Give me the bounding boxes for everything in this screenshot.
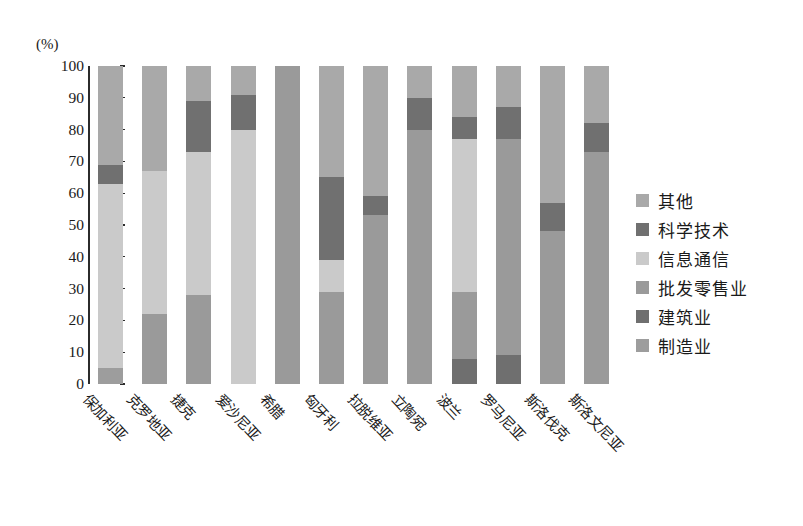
legend-swatch-icon	[636, 194, 649, 207]
bar-segment-信息通信	[98, 184, 123, 368]
bar-波兰	[452, 66, 477, 384]
legend-swatch-icon	[636, 223, 649, 236]
y-tick-label: 70	[40, 154, 84, 170]
bar-segment-建筑业	[496, 355, 521, 384]
x-label-罗马尼亚: 罗马尼亚	[476, 388, 531, 445]
bar-捷克	[186, 66, 211, 384]
bar-segment-批发零售业	[496, 139, 521, 355]
bar-segment-其他	[407, 66, 432, 98]
bar-segment-其他	[540, 66, 565, 203]
y-axis-tick-labels: 1009080706050403020100	[36, 0, 84, 526]
bar-立陶宛	[407, 66, 432, 384]
x-label-波兰: 波兰	[432, 388, 467, 424]
bar-segment-建筑业	[452, 359, 477, 384]
y-tick-label: 50	[40, 217, 84, 233]
bar-segment-其他	[584, 66, 609, 123]
x-label-斯洛伐克: 斯洛伐克	[521, 388, 576, 445]
stacked-bar-chart: (%) 1009080706050403020100 保加利亚克罗地亚捷克爱沙尼…	[0, 0, 803, 526]
bar-segment-科学技术	[540, 203, 565, 232]
bar-斯洛伐克	[540, 66, 565, 384]
bar-匈牙利	[319, 66, 344, 384]
legend-swatch-icon	[636, 281, 649, 294]
bar-segment-科学技术	[452, 117, 477, 139]
legend-label: 批发零售业	[658, 275, 748, 300]
bar-segment-批发零售业	[407, 130, 432, 384]
bar-segment-其他	[186, 66, 211, 101]
bar-拉脱维亚	[363, 66, 388, 384]
y-tick-label: 90	[40, 90, 84, 106]
x-label-爱沙尼亚: 爱沙尼亚	[211, 388, 266, 445]
bar-segment-其他	[142, 66, 167, 171]
bar-segment-科学技术	[186, 101, 211, 152]
bar-segment-批发零售业	[363, 215, 388, 384]
bar-罗马尼亚	[496, 66, 521, 384]
bar-segment-其他	[452, 66, 477, 117]
bar-segment-批发零售业	[540, 231, 565, 384]
legend-item: 制造业	[636, 331, 748, 360]
legend-item: 科学技术	[636, 215, 748, 244]
bar-segment-批发零售业	[275, 66, 300, 384]
bar-segment-科学技术	[496, 107, 521, 139]
x-label-匈牙利: 匈牙利	[300, 388, 345, 434]
x-label-斯洛文尼亚: 斯洛文尼亚	[565, 388, 630, 455]
x-label-希腊: 希腊	[255, 388, 290, 424]
y-tick-label: 30	[40, 281, 84, 297]
y-tick-label: 100	[40, 58, 84, 74]
legend-label: 信息通信	[658, 246, 730, 271]
y-tick-label: 0	[40, 376, 84, 392]
bar-segment-科学技术	[98, 165, 123, 184]
x-axis-category-labels: 保加利亚克罗地亚捷克爱沙尼亚希腊匈牙利拉脱维亚立陶宛波兰罗马尼亚斯洛伐克斯洛文尼…	[90, 388, 650, 518]
bar-segment-科学技术	[407, 98, 432, 130]
legend-label: 科学技术	[658, 217, 730, 242]
x-label-克罗地亚: 克罗地亚	[123, 388, 178, 445]
bar-segment-其他	[98, 66, 123, 165]
bar-segment-信息通信	[319, 260, 344, 292]
bar-斯洛文尼亚	[584, 66, 609, 384]
y-tick-label: 80	[40, 122, 84, 138]
bar-segment-科学技术	[363, 196, 388, 215]
x-label-捷克: 捷克	[167, 388, 202, 424]
bar-segment-科学技术	[319, 177, 344, 260]
bar-segment-批发零售业	[142, 314, 167, 384]
bar-segment-信息通信	[231, 130, 256, 384]
x-label-拉脱维亚: 拉脱维亚	[344, 388, 399, 445]
bar-segment-其他	[319, 66, 344, 177]
bar-segment-信息通信	[452, 139, 477, 292]
bar-segment-其他	[363, 66, 388, 196]
legend-swatch-icon	[636, 339, 649, 352]
y-tick-label: 20	[40, 313, 84, 329]
bar-segment-批发零售业	[584, 152, 609, 384]
bar-segment-信息通信	[186, 152, 211, 295]
legend-swatch-icon	[636, 310, 649, 323]
bar-segment-其他	[496, 66, 521, 107]
y-tick-label: 60	[40, 185, 84, 201]
legend-item: 其他	[636, 186, 748, 215]
bar-segment-批发零售业	[452, 292, 477, 359]
legend-item: 信息通信	[636, 244, 748, 273]
y-tick-label: 40	[40, 249, 84, 265]
legend-label: 其他	[658, 188, 694, 213]
chart-legend: 其他科学技术信息通信批发零售业建筑业制造业	[636, 186, 748, 360]
bar-segment-批发零售业	[186, 295, 211, 384]
bar-克罗地亚	[142, 66, 167, 384]
bar-segment-其他	[231, 66, 256, 95]
bar-segment-批发零售业	[319, 292, 344, 384]
bar-保加利亚	[98, 66, 123, 384]
legend-item: 批发零售业	[636, 273, 748, 302]
bar-爱沙尼亚	[231, 66, 256, 384]
bar-segment-科学技术	[584, 123, 609, 152]
bar-希腊	[275, 66, 300, 384]
bar-segment-科学技术	[231, 95, 256, 130]
legend-swatch-icon	[636, 252, 649, 265]
legend-label: 制造业	[658, 333, 712, 358]
legend-item: 建筑业	[636, 302, 748, 331]
bar-segment-信息通信	[142, 171, 167, 314]
legend-label: 建筑业	[658, 304, 712, 329]
bar-segment-制造业	[98, 368, 123, 384]
plot-area	[90, 66, 630, 384]
y-tick-label: 10	[40, 344, 84, 360]
x-label-保加利亚: 保加利亚	[79, 388, 134, 445]
